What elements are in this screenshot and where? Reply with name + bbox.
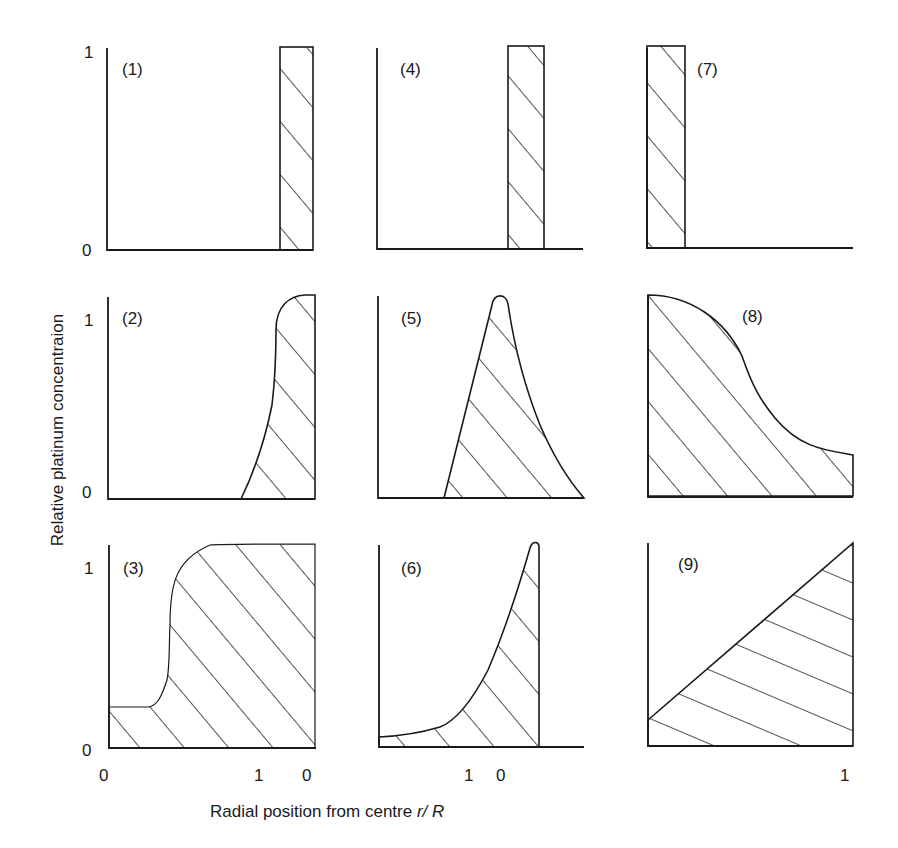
panel-1-label: (1) xyxy=(122,60,143,79)
x-tick-1-col1: 1 xyxy=(254,766,263,785)
x-axis-label: Radial position from centre r/ R xyxy=(210,802,444,821)
y-tick-0: 0 xyxy=(82,741,91,760)
panel-6: (6) xyxy=(379,542,584,747)
x-tick-0-col2: 0 xyxy=(302,766,311,785)
panel-5: (5) xyxy=(378,296,584,498)
y-tick-1: 1 xyxy=(84,559,93,578)
panel-7-band xyxy=(647,46,685,248)
y-tick-1: 1 xyxy=(84,43,93,62)
panel-7: (7) xyxy=(647,46,853,248)
y-tick-0: 0 xyxy=(82,241,91,260)
x-tick-1-col2: 1 xyxy=(464,766,473,785)
y-tick-1: 1 xyxy=(84,311,93,330)
panel-9: (9) xyxy=(648,543,853,746)
panel-5-profile xyxy=(444,296,584,498)
panel-9-label: (9) xyxy=(678,555,699,574)
panel-3: 1 0 (3) xyxy=(82,544,316,760)
panel-2: 1 0 (2) xyxy=(82,295,315,502)
figure-canvas: Relative platinum concentraion 1 0 (1) (… xyxy=(0,0,898,848)
panel-3-label: (3) xyxy=(123,559,144,578)
panel-4-label: (4) xyxy=(400,60,421,79)
panel-7-label: (7) xyxy=(697,60,718,79)
panel-2-label: (2) xyxy=(122,309,143,328)
y-axis-label: Relative platinum concentraion xyxy=(48,314,67,546)
panel-6-label: (6) xyxy=(401,559,422,578)
panel-1-band xyxy=(280,47,313,250)
panel-4-band xyxy=(508,46,544,249)
panel-8-label: (8) xyxy=(742,307,763,326)
panel-5-label: (5) xyxy=(401,309,422,328)
panel-2-profile xyxy=(241,295,315,499)
y-tick-0: 0 xyxy=(82,483,91,502)
x-tick-0-col3: 0 xyxy=(496,766,505,785)
panel-8: (8) xyxy=(648,295,853,497)
panel-4: (4) xyxy=(377,46,583,249)
x-tick-0-col1: 0 xyxy=(99,766,108,785)
panel-1: 1 0 (1) xyxy=(82,43,313,260)
x-tick-1-col3: 1 xyxy=(840,766,849,785)
